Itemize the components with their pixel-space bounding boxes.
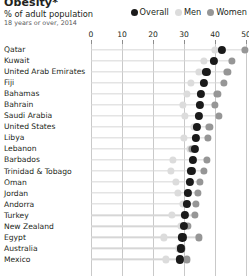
data-point-overall[interactable] bbox=[196, 101, 204, 109]
country-label: Bahrain bbox=[4, 99, 33, 110]
data-point-men[interactable] bbox=[200, 57, 207, 64]
country-label: Andorra bbox=[4, 199, 34, 210]
data-point-women[interactable] bbox=[215, 112, 222, 119]
data-point-men[interactable] bbox=[179, 101, 186, 108]
chart-row: Turkey bbox=[0, 210, 249, 221]
x-tick-label: 10 bbox=[117, 30, 127, 39]
row-connector-line bbox=[91, 248, 182, 249]
data-point-women[interactable] bbox=[205, 134, 212, 141]
data-point-overall[interactable] bbox=[218, 45, 226, 53]
legend-women[interactable]: Women bbox=[207, 7, 247, 17]
country-label: Bahamas bbox=[4, 88, 39, 99]
data-point-overall[interactable] bbox=[197, 90, 205, 98]
data-point-men[interactable] bbox=[187, 79, 194, 86]
data-point-women[interactable] bbox=[228, 57, 235, 64]
country-label: Oman bbox=[4, 177, 27, 188]
x-tick-label: 30 bbox=[179, 30, 189, 39]
data-point-women[interactable] bbox=[203, 156, 210, 163]
chart-row: United Arab Emirates bbox=[0, 66, 249, 77]
country-label: Fiji bbox=[4, 77, 14, 88]
data-point-overall[interactable] bbox=[200, 79, 208, 87]
data-point-women[interactable] bbox=[192, 201, 199, 208]
row-connector-line bbox=[91, 259, 187, 260]
legend-men[interactable]: Men bbox=[175, 7, 201, 17]
data-point-women[interactable] bbox=[195, 190, 202, 197]
chart-legend: OverallMenWomen bbox=[131, 7, 247, 17]
data-point-men[interactable] bbox=[169, 156, 176, 163]
data-point-men[interactable] bbox=[172, 178, 179, 185]
data-point-women[interactable] bbox=[206, 123, 213, 130]
data-point-men[interactable] bbox=[160, 234, 167, 241]
data-point-overall[interactable] bbox=[193, 123, 201, 131]
data-point-men[interactable] bbox=[181, 134, 188, 141]
chart-row: Fiji bbox=[0, 77, 249, 88]
data-point-women[interactable] bbox=[200, 167, 207, 174]
row-track bbox=[91, 199, 246, 210]
country-label: New Zealand bbox=[4, 221, 54, 232]
legend-overall[interactable]: Overall bbox=[131, 7, 169, 17]
row-connector-line bbox=[91, 226, 188, 227]
data-point-overall[interactable] bbox=[202, 68, 210, 76]
data-point-women[interactable] bbox=[196, 178, 203, 185]
row-track bbox=[91, 254, 246, 265]
data-point-women[interactable] bbox=[195, 234, 202, 241]
data-point-overall[interactable] bbox=[185, 178, 193, 186]
data-point-overall[interactable] bbox=[192, 134, 200, 142]
data-point-women[interactable] bbox=[184, 256, 191, 263]
data-point-overall[interactable] bbox=[184, 189, 192, 197]
chart-rows: QatarKuwaitUnited Arab EmiratesFijiBaham… bbox=[0, 44, 249, 265]
data-point-overall[interactable] bbox=[178, 233, 186, 241]
legend-label: Women bbox=[216, 7, 247, 17]
row-track bbox=[91, 210, 246, 221]
data-point-men[interactable] bbox=[184, 90, 191, 97]
data-point-men[interactable] bbox=[167, 167, 174, 174]
data-point-overall[interactable] bbox=[194, 112, 202, 120]
chart-row: Jordan bbox=[0, 188, 249, 199]
country-label: Egypt bbox=[4, 232, 26, 243]
row-connector-line bbox=[91, 192, 198, 193]
row-track bbox=[91, 188, 246, 199]
country-label: Kuwait bbox=[4, 55, 29, 66]
data-point-overall[interactable] bbox=[187, 167, 195, 175]
data-point-women[interactable] bbox=[214, 90, 221, 97]
country-label: Australia bbox=[4, 243, 38, 254]
chart-row: Trinidad & Tobago bbox=[0, 166, 249, 177]
row-track bbox=[91, 66, 246, 77]
x-tick-label: 0 bbox=[89, 30, 94, 39]
data-point-men[interactable] bbox=[181, 112, 188, 119]
data-point-men[interactable] bbox=[162, 256, 169, 263]
chart-note: 18 years or over, 2014 bbox=[4, 19, 77, 27]
row-track bbox=[91, 132, 246, 143]
chart-row: Mexico bbox=[0, 254, 249, 265]
row-connector-line bbox=[91, 181, 200, 182]
data-point-women[interactable] bbox=[191, 212, 198, 219]
chart-row: Bahrain bbox=[0, 99, 249, 110]
x-tick-label: 20 bbox=[148, 30, 158, 39]
row-connector-line bbox=[91, 137, 208, 138]
chart-row: Qatar bbox=[0, 44, 249, 55]
row-track bbox=[91, 55, 246, 66]
data-point-overall[interactable] bbox=[189, 156, 197, 164]
data-point-overall[interactable] bbox=[190, 145, 198, 153]
chart-row: New Zealand bbox=[0, 221, 249, 232]
data-point-men[interactable] bbox=[168, 212, 175, 219]
row-connector-line bbox=[91, 215, 195, 216]
data-point-overall[interactable] bbox=[176, 255, 184, 263]
data-point-overall[interactable] bbox=[181, 211, 189, 219]
data-point-women[interactable] bbox=[241, 46, 248, 53]
chart-row: Barbados bbox=[0, 154, 249, 165]
country-label: United Arab Emirates bbox=[4, 66, 85, 77]
country-label: Trinidad & Tobago bbox=[4, 166, 72, 177]
chart-title: Obesity* bbox=[4, 0, 58, 9]
data-point-women[interactable] bbox=[224, 68, 231, 75]
data-point-women[interactable] bbox=[220, 79, 227, 86]
data-point-overall[interactable] bbox=[183, 200, 191, 208]
row-track bbox=[91, 143, 246, 154]
row-track bbox=[91, 221, 246, 232]
data-point-overall[interactable] bbox=[210, 56, 218, 64]
data-point-men[interactable] bbox=[175, 190, 182, 197]
data-point-women[interactable] bbox=[212, 101, 219, 108]
legend-swatch-icon bbox=[131, 9, 138, 16]
country-label: Turkey bbox=[4, 210, 29, 221]
data-point-overall[interactable] bbox=[177, 244, 185, 252]
